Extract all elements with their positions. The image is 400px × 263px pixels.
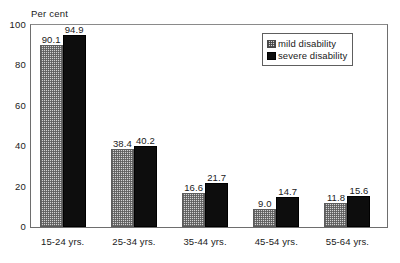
bar-severe: 94.9	[63, 35, 86, 227]
bar-mild: 9.0	[253, 209, 276, 227]
bar-mild: 16.6	[182, 193, 205, 227]
bar-severe: 15.6	[347, 196, 370, 228]
legend-label-mild: mild disability	[278, 38, 336, 49]
bar-severe: 40.2	[134, 146, 157, 227]
y-tick-60: 60	[0, 99, 26, 110]
bar-mild: 38.4	[111, 149, 134, 227]
y-tick-80: 80	[0, 59, 26, 70]
bar-severe: 14.7	[276, 197, 299, 227]
y-tick-100: 100	[0, 19, 26, 30]
bar-value-label: 15.6	[350, 185, 369, 196]
y-tick-20: 20	[0, 180, 26, 191]
bar-value-label: 11.8	[327, 192, 345, 203]
x-axis-label: 55-64 yrs.	[326, 236, 369, 247]
x-axis-label: 15-24 yrs.	[41, 236, 84, 247]
chart-legend: mild disability severe disability	[262, 33, 353, 66]
bar-value-label: 14.7	[278, 186, 297, 197]
bar-chart: Per cent 100 80 60 40 20 0 90.194.938.44…	[0, 0, 400, 263]
x-axis-labels: 15-24 yrs.25-34 yrs.35-44 yrs.45-54 yrs.…	[31, 236, 387, 252]
bar-value-label: 90.1	[42, 34, 61, 45]
bar-severe: 21.7	[205, 183, 228, 227]
legend-swatch-severe-icon	[267, 52, 276, 60]
y-tick-40: 40	[0, 140, 26, 151]
bar-value-label: 9.0	[258, 198, 272, 209]
bar-value-label: 40.2	[136, 135, 155, 146]
x-axis-label: 45-54 yrs.	[255, 236, 298, 247]
bar-value-label: 16.6	[184, 182, 203, 193]
bar-value-label: 94.9	[65, 24, 84, 35]
legend-label-severe: severe disability	[278, 50, 347, 61]
bar-mild: 90.1	[40, 45, 63, 227]
bar-value-label: 38.4	[113, 138, 132, 149]
legend-swatch-mild-icon	[267, 40, 276, 48]
bar-mild: 11.8	[324, 203, 347, 227]
y-axis-title: Per cent	[31, 8, 68, 19]
legend-item-mild-disability: mild disability	[267, 38, 347, 49]
y-tick-0: 0	[0, 221, 26, 232]
x-axis-label: 25-34 yrs.	[112, 236, 155, 247]
legend-item-severe-disability: severe disability	[267, 50, 347, 61]
x-axis-label: 35-44 yrs.	[183, 236, 226, 247]
bar-value-label: 21.7	[207, 172, 226, 183]
